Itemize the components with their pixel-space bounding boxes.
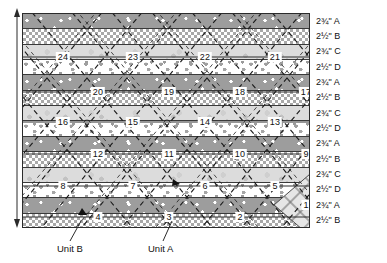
- block-number: 20: [91, 87, 105, 97]
- block-number: 5: [270, 181, 279, 191]
- block-number: 24: [56, 52, 70, 62]
- block-number: 12: [91, 149, 105, 159]
- block-number: 14: [198, 117, 212, 127]
- block-number: 19: [162, 87, 176, 97]
- unit-a-arrowhead: [172, 179, 180, 186]
- strip-set-panel: 24 23 22 21 20 19 18 17 16 15 14 13 12 1…: [22, 13, 310, 228]
- block-number: 7: [128, 181, 137, 191]
- block-number: 23: [126, 52, 140, 62]
- block-number: 15: [126, 117, 140, 127]
- legend-row: 2¾" C: [316, 166, 386, 181]
- block-number: 9: [301, 149, 310, 159]
- block-number: 18: [233, 87, 247, 97]
- stripe-legend: 2¾" A 2½" B 2¾" C 2½" D 2¾" A 2½" B 2¾" …: [316, 13, 386, 228]
- legend-row: 2½" B: [316, 90, 386, 105]
- block-number: 8: [58, 181, 67, 191]
- block-number: 10: [233, 149, 247, 159]
- legend-row: 2¾" A: [316, 13, 386, 28]
- block-number: 21: [268, 52, 282, 62]
- quilt-cutting-diagram: 24 23 22 21 20 19 18 17 16 15 14 13 12 1…: [0, 0, 387, 263]
- unit-b-caption: Unit B: [57, 243, 83, 254]
- unit-b-arrowhead: [78, 208, 87, 215]
- legend-row: 2½" D: [316, 182, 386, 197]
- legend-row: 2½" D: [316, 120, 386, 135]
- block-number: 1: [301, 200, 310, 210]
- legend-row: 2½" B: [316, 212, 386, 227]
- legend-row: 2¾" A: [316, 136, 386, 151]
- block-number: 17: [299, 87, 310, 97]
- block-number: 6: [200, 181, 209, 191]
- legend-row: 2¾" A: [316, 197, 386, 212]
- block-number: 4: [93, 212, 102, 222]
- legend-row: 2¾" C: [316, 44, 386, 59]
- block-number: 11: [162, 149, 176, 159]
- legend-row: 2¾" A: [316, 74, 386, 89]
- block-number: 13: [268, 117, 282, 127]
- block-number: 3: [164, 212, 173, 222]
- legend-row: 2½" B: [316, 151, 386, 166]
- legend-row: 2¾" C: [316, 105, 386, 120]
- unit-a-caption: Unit A: [148, 243, 173, 254]
- block-number: 2: [235, 212, 244, 222]
- legend-row: 2½" D: [316, 59, 386, 74]
- block-number: 16: [56, 117, 70, 127]
- legend-row: 2½" B: [316, 28, 386, 43]
- block-number: 22: [198, 52, 212, 62]
- seam-lines: [23, 57, 310, 217]
